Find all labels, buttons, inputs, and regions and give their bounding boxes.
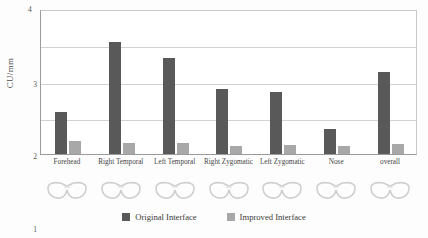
legend-swatch-improved-icon — [227, 213, 235, 221]
bar-group — [41, 11, 95, 154]
y-axis-tick-label-3: 3 — [33, 79, 37, 88]
bar-improved — [338, 146, 350, 154]
x-axis-label: Left Zygomatic — [260, 158, 305, 166]
bar-group — [203, 11, 257, 154]
bar-chart-figure: CU/mm 4 123 ForeheadRight TemporalLeft T… — [0, 0, 428, 238]
bar-improved — [392, 144, 404, 154]
bar-original — [324, 129, 336, 154]
bar-original — [163, 58, 175, 154]
y-axis-tick-label-1: 1 — [33, 224, 37, 233]
safety-goggles-icon — [153, 180, 197, 206]
legend-item-improved: Improved Interface — [227, 212, 306, 222]
bar-original — [270, 92, 282, 154]
safety-goggles-icon — [99, 180, 143, 206]
legend-item-original: Original Interface — [122, 212, 196, 222]
bar-original — [378, 72, 390, 154]
bar-original — [216, 89, 228, 154]
legend-label-original: Original Interface — [135, 212, 196, 222]
plot-area: 123 — [40, 10, 417, 155]
x-axis-label: Right Zygomatic — [204, 158, 253, 166]
bar-group — [310, 11, 364, 154]
legend-label-improved: Improved Interface — [240, 212, 306, 222]
bar-group — [95, 11, 149, 154]
goggles-icon-row — [40, 180, 417, 206]
bar-group — [149, 11, 203, 154]
bar-group — [256, 11, 310, 154]
x-axis-label: Nose — [329, 158, 344, 166]
safety-goggles-icon — [207, 180, 251, 206]
chart-legend: Original Interface Improved Interface — [0, 212, 428, 222]
safety-goggles-icon — [260, 180, 304, 206]
bar-group — [364, 11, 418, 154]
x-axis-label: Forehead — [54, 158, 81, 166]
bar-original — [109, 42, 121, 154]
safety-goggles-icon — [368, 180, 412, 206]
y-axis-tick-label-2: 2 — [33, 152, 37, 161]
bar-original — [55, 112, 67, 154]
bar-improved — [284, 145, 296, 154]
y-axis-title: CU/mm — [5, 43, 15, 103]
x-axis-label: overall — [380, 158, 400, 166]
y-axis-tick-label-4: 4 — [28, 5, 32, 14]
bar-improved — [69, 141, 81, 154]
safety-goggles-icon — [45, 180, 89, 206]
x-axis-category-labels: ForeheadRight TemporalLeft TemporalRight… — [40, 158, 417, 176]
legend-swatch-original-icon — [122, 213, 130, 221]
safety-goggles-icon — [314, 180, 358, 206]
bar-improved — [230, 146, 242, 154]
bar-improved — [177, 143, 189, 154]
x-axis-label: Left Temporal — [154, 158, 195, 166]
bar-improved — [123, 143, 135, 154]
x-axis-label: Right Temporal — [98, 158, 143, 166]
